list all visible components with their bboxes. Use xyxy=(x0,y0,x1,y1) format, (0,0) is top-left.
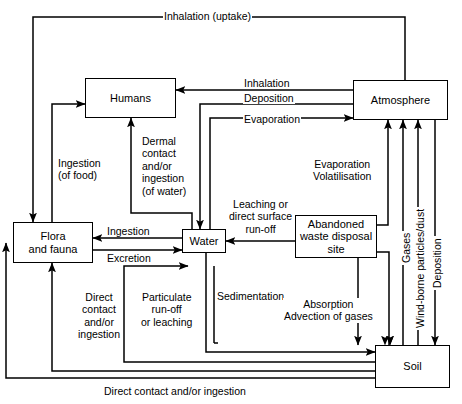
node-atmosphere[interactable]: Atmosphere xyxy=(353,80,448,120)
node-water[interactable]: Water xyxy=(182,229,226,253)
label-excretion: Excretion xyxy=(106,252,152,264)
node-humans[interactable]: Humans xyxy=(85,78,176,118)
label-ingestion: Ingestion xyxy=(106,225,151,237)
label-evaporation-volatilisation: Evaporation Volatilisation xyxy=(312,158,372,183)
node-flora-and-fauna-label: Flora and fauna xyxy=(29,230,78,255)
label-ingestion-of-food: Ingestion (of food) xyxy=(57,157,102,182)
label-particulate-runoff: Particulate run-off or leaching xyxy=(140,291,193,328)
pathway-diagram: Humans Atmosphere Flora and fauna Water … xyxy=(0,0,462,404)
node-flora-and-fauna[interactable]: Flora and fauna xyxy=(13,222,93,263)
label-deposition-top: Deposition xyxy=(243,92,295,104)
node-water-label: Water xyxy=(190,235,219,248)
label-inhalation-uptake: Inhalation (uptake) xyxy=(163,10,252,22)
label-gases: Gases xyxy=(400,231,412,265)
label-wind-borne-particles: Wind-borne particles/dust xyxy=(414,207,426,330)
edge-evaporation-volatilisation xyxy=(377,120,388,225)
node-waste-label: Abandoned waste disposal site xyxy=(300,218,372,256)
label-absorption-advection: Absorption Advection of gases xyxy=(283,298,374,323)
label-direct-contact-bottom: Direct contact and/or ingestion xyxy=(103,385,247,397)
label-dermal-contact-water: Dermal contact and/or ingestion (of wate… xyxy=(141,135,187,197)
label-deposition-right: Deposition xyxy=(431,236,443,290)
label-inhalation: Inhalation xyxy=(243,77,291,89)
label-leaching-runoff: Leaching or direct surface run-off xyxy=(228,198,293,235)
node-humans-label: Humans xyxy=(110,92,151,105)
label-evaporation-top: Evaporation xyxy=(243,113,301,125)
label-direct-contact-ingestion-left: Direct contact and/or ingestion xyxy=(77,291,121,341)
node-soil-label: Soil xyxy=(403,360,421,373)
label-sedimentation: Sedimentation xyxy=(216,290,285,302)
node-soil[interactable]: Soil xyxy=(375,345,450,388)
node-atmosphere-label: Atmosphere xyxy=(371,94,430,107)
node-abandoned-waste-disposal-site[interactable]: Abandoned waste disposal site xyxy=(295,215,377,258)
edge-waste-soil xyxy=(377,252,389,345)
edge-inhalation-uptake xyxy=(33,17,405,222)
